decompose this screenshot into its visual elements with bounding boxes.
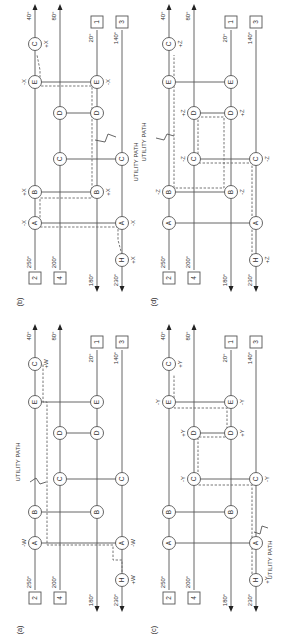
start-angle-label: 140° bbox=[113, 351, 119, 364]
terminal-box-label: 1 bbox=[93, 340, 100, 344]
node-letter: H bbox=[252, 577, 259, 582]
node-letter: E bbox=[31, 79, 38, 84]
node-letter: B bbox=[31, 510, 38, 514]
node-letter: C bbox=[165, 41, 172, 46]
end-angle-label: 180° bbox=[88, 593, 94, 606]
utility-path-label: UTILITY PATH bbox=[267, 540, 273, 579]
end-angle-label: 180° bbox=[88, 273, 94, 286]
start-angle-label: 250° bbox=[26, 575, 32, 588]
end-angle-label: 180° bbox=[222, 593, 228, 606]
sign-label: -Z bbox=[155, 189, 161, 195]
arrow-up-icon bbox=[58, 324, 63, 330]
start-angle-label: 200° bbox=[51, 255, 57, 268]
node-letter: D bbox=[227, 110, 234, 115]
terminal-box-label: 1 bbox=[227, 340, 234, 344]
utility-path bbox=[43, 364, 122, 580]
terminal-box-label: 3 bbox=[118, 20, 125, 24]
arrow-up-icon bbox=[167, 4, 172, 10]
terminal-box-label: 4 bbox=[190, 276, 197, 280]
terminal-box-label: 2 bbox=[165, 596, 172, 600]
terminal-box-label: 3 bbox=[118, 340, 125, 344]
terminal-box-label: 4 bbox=[190, 596, 197, 600]
node-letter: C bbox=[118, 476, 125, 481]
sign-label: -X bbox=[21, 79, 27, 85]
sign-label: -Y bbox=[264, 476, 270, 482]
node-letter: D bbox=[190, 430, 197, 435]
node-letter: D bbox=[190, 110, 197, 115]
utility-path-label: UTILITY PATH bbox=[141, 122, 147, 161]
node-letter: C bbox=[56, 156, 63, 161]
node-letter: E bbox=[31, 399, 38, 404]
node-letter: D bbox=[56, 430, 63, 435]
end-angle-label: 230° bbox=[113, 593, 119, 606]
figure-four-panel-utility-path: UTILITY PATH2250°40°4200°80°120°180°3140… bbox=[0, 0, 296, 643]
end-angle-label: 80° bbox=[185, 331, 191, 341]
end-angle-label: 230° bbox=[113, 273, 119, 286]
end-angle-label: 40° bbox=[26, 331, 32, 341]
terminal-box-label: 1 bbox=[93, 20, 100, 24]
utility-path-label: UTILITY PATH bbox=[133, 142, 139, 181]
start-angle-label: 200° bbox=[51, 575, 57, 588]
arrow-up-icon bbox=[192, 4, 197, 10]
sign-label: -Z bbox=[264, 156, 270, 162]
panel-b: UTILITY PATH2250°40°4200°80°120°180°3140… bbox=[15, 4, 139, 307]
node-letter: C bbox=[190, 476, 197, 481]
end-angle-label: 230° bbox=[247, 273, 253, 286]
diagram-canvas: UTILITY PATH2250°40°4200°80°120°180°3140… bbox=[0, 0, 296, 643]
node-letter: B bbox=[165, 510, 172, 514]
node-letter: B bbox=[227, 190, 234, 194]
end-angle-label: 80° bbox=[51, 331, 57, 341]
node-letter: E bbox=[93, 79, 100, 84]
node-letter: E bbox=[93, 399, 100, 404]
panel-c: UTILITY PATH2250°40°4200°80°120°180°3140… bbox=[149, 324, 273, 634]
sign-label: -W bbox=[130, 539, 136, 547]
node-letter: D bbox=[56, 110, 63, 115]
node-letter: A bbox=[31, 220, 38, 225]
sign-label: +W bbox=[130, 575, 136, 585]
node-letter: C bbox=[252, 156, 259, 161]
sign-label: -X bbox=[105, 79, 111, 85]
node-letter: D bbox=[227, 430, 234, 435]
node-letter: D bbox=[93, 110, 100, 115]
terminal-box-label: 1 bbox=[227, 20, 234, 24]
sign-label: -Z bbox=[239, 189, 245, 195]
arrow-down-icon bbox=[229, 286, 234, 292]
sign-label: -Y bbox=[239, 399, 245, 405]
node-letter: D bbox=[93, 430, 100, 435]
node-letter: A bbox=[165, 220, 172, 225]
start-angle-label: 20° bbox=[222, 353, 228, 363]
end-angle-label: 40° bbox=[160, 11, 166, 21]
node-letter: B bbox=[31, 190, 38, 194]
node-letter: E bbox=[165, 399, 172, 404]
node-letter: H bbox=[252, 257, 259, 262]
arrow-down-icon bbox=[254, 286, 259, 292]
node-letter: C bbox=[252, 476, 259, 481]
node-letter: A bbox=[252, 540, 259, 545]
sign-label: +W bbox=[43, 359, 49, 369]
arrow-down-icon bbox=[120, 606, 125, 612]
sign-label: -Y bbox=[155, 399, 161, 405]
start-angle-label: 140° bbox=[247, 31, 253, 44]
node-letter: E bbox=[227, 79, 234, 84]
arrow-down-icon bbox=[120, 286, 125, 292]
utility-path-leader bbox=[156, 134, 174, 140]
node-letter: A bbox=[118, 540, 125, 545]
node-letter: C bbox=[56, 476, 63, 481]
start-angle-label: 200° bbox=[185, 255, 191, 268]
arrow-up-icon bbox=[58, 4, 63, 10]
node-letter: A bbox=[118, 220, 125, 225]
sign-label: +Y bbox=[177, 360, 183, 368]
end-angle-label: 180° bbox=[222, 273, 228, 286]
sign-label: +X bbox=[43, 40, 49, 48]
sign-label: -X bbox=[21, 220, 27, 226]
sign-label: +Y bbox=[180, 429, 186, 437]
panel-a: UTILITY PATH2250°40°4200°80°120°180°3140… bbox=[15, 324, 136, 635]
node-letter: E bbox=[227, 399, 234, 404]
arrow-down-icon bbox=[229, 606, 234, 612]
node-letter: E bbox=[165, 79, 172, 84]
start-angle-label: 250° bbox=[160, 575, 166, 588]
start-angle-label: 140° bbox=[247, 351, 253, 364]
start-angle-label: 250° bbox=[26, 255, 32, 268]
sign-label: -X bbox=[130, 220, 136, 226]
arrow-up-icon bbox=[167, 324, 172, 330]
